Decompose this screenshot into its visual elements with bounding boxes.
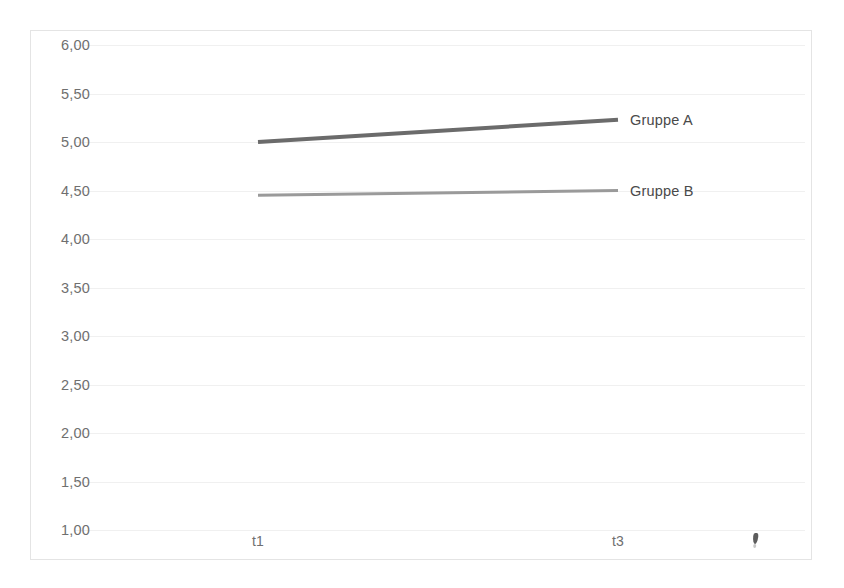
gridline <box>75 433 805 434</box>
y-tick-label: 2,00 <box>61 425 90 441</box>
gridline <box>75 142 805 143</box>
gridline <box>75 94 805 95</box>
gridline <box>75 288 805 289</box>
line-chart: 6,005,505,004,504,003,503,002,502,001,50… <box>0 0 844 588</box>
y-tick-label: 4,00 <box>61 231 90 247</box>
gridline <box>75 239 805 240</box>
y-tick-label: 6,00 <box>61 37 90 53</box>
series-label: Gruppe A <box>630 112 693 128</box>
gridline <box>75 530 805 531</box>
y-tick-label: 5,50 <box>61 86 90 102</box>
gridline <box>75 191 805 192</box>
gridline <box>75 45 805 46</box>
x-tick-label: t1 <box>252 533 264 549</box>
gridline <box>75 482 805 483</box>
y-tick-label: 3,00 <box>61 328 90 344</box>
x-axis-tick-labels: t1t3 <box>0 533 844 563</box>
plot-area <box>75 45 805 530</box>
y-tick-label: 2,50 <box>61 377 90 393</box>
gridline <box>75 336 805 337</box>
y-axis-tick-labels: 6,005,505,004,504,003,503,002,502,001,50… <box>38 45 90 530</box>
y-tick-label: 1,50 <box>61 474 90 490</box>
y-tick-label: 4,50 <box>61 183 90 199</box>
x-tick-label: t3 <box>612 533 624 549</box>
y-tick-label: 5,00 <box>61 134 90 150</box>
y-tick-label: 3,50 <box>61 280 90 296</box>
series-label: Gruppe B <box>630 183 694 199</box>
gridline <box>75 385 805 386</box>
